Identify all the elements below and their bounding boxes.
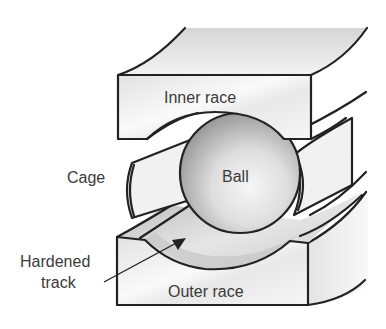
label-ball: Ball — [222, 168, 249, 185]
label-inner-race: Inner race — [164, 89, 236, 106]
bearing-diagram: Inner race Ball Cage Hardened track Oute… — [0, 0, 386, 329]
bearing-illustration: Inner race Ball Cage Hardened track Oute… — [0, 0, 386, 329]
label-hardened-track-line2: track — [41, 274, 77, 291]
label-cage: Cage — [67, 169, 105, 186]
label-outer-race: Outer race — [168, 283, 244, 300]
label-hardened-track-line1: Hardened — [20, 253, 90, 270]
